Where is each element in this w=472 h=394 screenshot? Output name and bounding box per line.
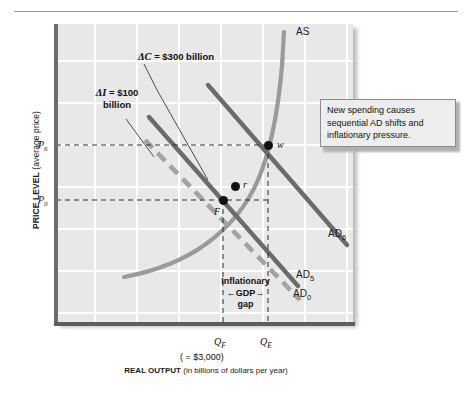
curve-label-as: AS: [296, 26, 309, 37]
callout-box: New spending causes sequential AD shifts…: [320, 99, 456, 147]
gap-arrow-left: ←: [227, 288, 236, 298]
point-marker-r: [231, 182, 240, 191]
point-label-r: r: [243, 179, 247, 190]
inflationary-gap-annotation: Inflationary ←GDP→ gap: [188, 276, 303, 311]
callout-line-2: sequential AD shifts and: [327, 117, 449, 130]
y-axis-line: [54, 24, 58, 325]
x-axis-title-light: (in billions of dollars per year): [183, 366, 288, 375]
x-tick-label-qf: QF: [214, 336, 226, 350]
delta-c-annotation: ΔC = $300 billion: [106, 51, 246, 63]
y-tick-label-p6: P6: [38, 139, 48, 153]
plot-area: w r F AS AD6 AD5 AD0 ΔC = $300 billion Δ…: [56, 24, 353, 323]
x-axis-line: [54, 322, 355, 326]
curve-label-ad6: AD6: [328, 228, 346, 242]
x-tick-note: ( = $3,000): [180, 352, 224, 362]
x-tick-label-qe: QE: [260, 336, 272, 350]
delta-i-leader-line: [126, 119, 154, 157]
point-marker-F: [219, 196, 228, 205]
delta-i-annotation: ΔI = $100billion: [62, 87, 172, 111]
callout-line-3: inflationary pressure.: [327, 129, 449, 142]
point-label-w: w: [277, 139, 284, 150]
x-axis-title-bold: REAL OUTPUT: [124, 366, 181, 375]
point-label-F: F: [214, 206, 220, 217]
point-marker-w: [264, 141, 273, 150]
callout-line-1: New spending causes: [327, 104, 449, 117]
ad-as-inflationary-gap-figure: PRICE LEVEL (average price): [0, 0, 472, 394]
top-divider-rule: [14, 11, 458, 12]
y-axis-title: PRICE LEVEL (average price): [31, 65, 41, 275]
gap-arrow-right: →: [255, 288, 264, 298]
y-tick-label-p0: P0: [38, 194, 48, 208]
gap-line3: gap: [237, 299, 253, 309]
x-axis-title: REAL OUTPUT (in billions of dollars per …: [56, 366, 356, 375]
gap-line2: GDP: [236, 288, 256, 298]
gap-line1: Inflationary: [221, 276, 270, 286]
